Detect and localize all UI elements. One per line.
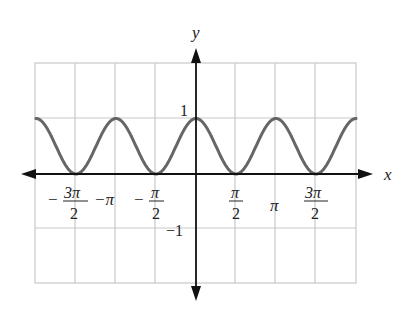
y-tick-neg-1: −1 [166,222,183,239]
x-tick-pi: π [270,196,279,215]
svg-text:2: 2 [232,205,240,222]
svg-text:3π: 3π [304,184,322,201]
y-axis-up-arrow-icon [191,48,201,63]
svg-text:π: π [231,184,240,201]
y-axis-label: y [190,23,200,42]
cos-squared-graph: x y 1 −1 − 3π 2 −π − π 2 π 2 π 3π 2 [0,0,414,309]
x-tick-neg-3pi-over-2: − 3π 2 [48,184,88,222]
svg-text:3π: 3π [63,184,81,201]
x-axis-label: x [383,165,392,184]
x-axis-left-arrow-icon [21,169,36,179]
svg-text:−: − [134,190,144,209]
y-tick-1: 1 [180,102,188,119]
x-tick-pi-over-2: π 2 [229,184,243,222]
svg-text:2: 2 [70,205,78,222]
x-tick-3pi-over-2: 3π 2 [304,184,328,222]
svg-text:2: 2 [152,205,160,222]
x-axis-right-arrow-icon [358,169,373,179]
svg-text:−: − [48,190,58,209]
y-axis-down-arrow-icon [191,286,201,301]
x-tick-neg-pi: −π [94,190,114,209]
svg-text:2: 2 [311,205,319,222]
x-tick-neg-pi-over-2: − π 2 [134,184,164,222]
svg-text:π: π [151,184,160,201]
